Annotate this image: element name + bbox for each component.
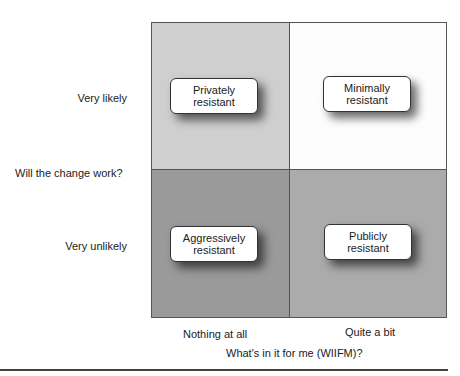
quadrant-top-right: Minimally resistant — [290, 23, 446, 170]
label-box-minimally-resistant: Minimally resistant — [323, 76, 411, 112]
x-tick-quite-a-bit: Quite a bit — [345, 326, 395, 338]
box-line-2: resistant — [346, 94, 388, 106]
box-line-1: Privately — [193, 84, 235, 96]
label-box-aggressively-resistant: Aggressively resistant — [170, 226, 258, 262]
box-line-1: Publicly — [349, 230, 387, 242]
box-line-2: resistant — [193, 96, 235, 108]
box-line-1: Minimally — [344, 82, 390, 94]
y-axis-title: Will the change work? — [15, 167, 123, 179]
x-axis-title: What's in it for me (WIIFM)? — [226, 347, 363, 359]
bottom-rule — [0, 369, 448, 371]
box-line-2: resistant — [347, 242, 389, 254]
label-box-privately-resistant: Privately resistant — [170, 78, 258, 114]
box-line-2: resistant — [193, 244, 235, 256]
y-tick-very-unlikely: Very unlikely — [65, 240, 127, 252]
quadrant-grid: Privately resistant Minimally resistant … — [151, 22, 447, 318]
quadrant-top-left: Privately resistant — [152, 23, 290, 170]
box-line-1: Aggressively — [183, 232, 245, 244]
quadrant-bottom-right: Publicly resistant — [290, 170, 446, 317]
label-box-publicly-resistant: Publicly resistant — [324, 224, 412, 260]
y-tick-very-likely: Very likely — [77, 92, 127, 104]
quadrant-bottom-left: Aggressively resistant — [152, 170, 290, 317]
x-tick-nothing-at-all: Nothing at all — [183, 328, 247, 340]
